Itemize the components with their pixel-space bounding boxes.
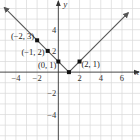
y-tick-label: −4 <box>47 110 57 120</box>
axes: xy <box>0 0 139 140</box>
x-tick-label: 4 <box>99 73 104 83</box>
point-label: (2, 1) <box>82 59 101 69</box>
point-label: (−2, 3) <box>11 31 34 41</box>
y-tick-label: 2 <box>52 46 56 56</box>
grid <box>0 0 140 140</box>
point-label: (0, 1) <box>38 60 57 70</box>
x-axis-label: x <box>134 67 139 77</box>
data-point <box>46 49 50 53</box>
y-tick-label: −2 <box>47 88 56 98</box>
x-tick-label: 6 <box>120 73 124 83</box>
point-label: (−1, 2) <box>22 47 45 57</box>
x-tick-label: −2 <box>33 73 42 83</box>
data-point <box>56 60 60 64</box>
function-graph: xy −4−224642−2−4 (−2, 3)(−1, 2)(0, 1)(2,… <box>0 0 140 140</box>
vertex-point <box>67 70 71 74</box>
y-tick-label: 4 <box>52 25 57 35</box>
x-tick-label: 2 <box>77 73 81 83</box>
x-tick-label: −4 <box>11 73 21 83</box>
data-point <box>35 38 39 42</box>
y-axis-label: y <box>62 0 67 9</box>
